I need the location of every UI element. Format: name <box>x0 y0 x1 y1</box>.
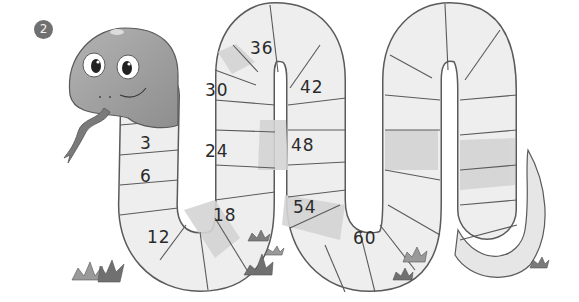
segment-label-3: 3 <box>140 133 152 153</box>
segment-label-30: 30 <box>205 80 229 100</box>
segment-label-18: 18 <box>213 205 237 225</box>
snake-head <box>69 28 178 128</box>
segment-label-36: 36 <box>250 38 274 58</box>
segment-label-12: 12 <box>147 227 171 247</box>
segment-label-54: 54 <box>293 197 317 217</box>
snake-tongue <box>64 108 110 163</box>
segment-label-60: 60 <box>353 228 377 248</box>
worksheet-canvas: 2 <box>0 0 579 302</box>
segment-label-24: 24 <box>205 141 229 161</box>
segment-label-6: 6 <box>140 166 152 186</box>
snake-illustration <box>0 0 579 302</box>
segment-label-42: 42 <box>300 77 324 97</box>
segment-label-48: 48 <box>291 135 315 155</box>
